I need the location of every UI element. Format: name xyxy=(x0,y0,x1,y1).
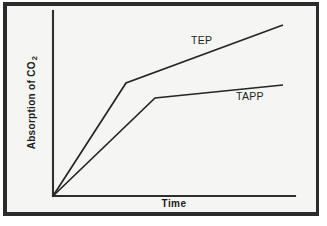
y-axis-label-subscript: 2 xyxy=(30,56,39,60)
y-axis-label-text: Absorption of CO xyxy=(26,61,37,149)
series-line-tep xyxy=(53,25,283,196)
series-label-tapp: TAPP xyxy=(236,90,264,102)
x-axis-label: Time xyxy=(53,198,295,209)
plot-area: TEP TAPP Time Absorption of CO2 xyxy=(0,0,327,226)
chart-canvas xyxy=(0,0,327,226)
series-label-tep: TEP xyxy=(191,34,212,46)
y-axis-label-wrapper: Absorption of CO2 xyxy=(21,28,41,178)
y-axis-label: Absorption of CO2 xyxy=(26,57,37,150)
chart-figure: TEP TAPP Time Absorption of CO2 xyxy=(0,0,327,226)
